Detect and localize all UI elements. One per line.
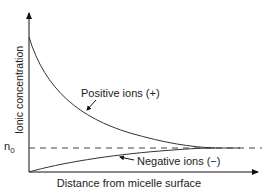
micelle-ion-diagram: Positive ions (+) Negative ions (−) Dist… [0, 0, 274, 195]
x-axis-label: Distance from micelle surface [57, 177, 201, 189]
negative-label-pointer [120, 157, 134, 160]
positive-label-pointer [87, 100, 96, 110]
n0-label: n0 [4, 140, 15, 155]
y-axis-label: Ionic concentration [13, 46, 25, 134]
positive-ions-label: Positive ions (+) [81, 87, 160, 99]
negative-ions-label: Negative ions (−) [137, 155, 220, 167]
